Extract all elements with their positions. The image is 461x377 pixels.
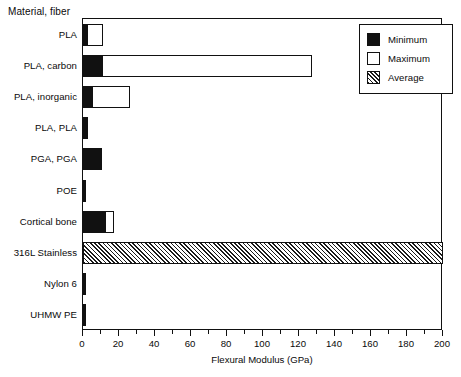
bar-group <box>83 211 441 233</box>
bar-segment-maximum <box>87 24 103 46</box>
x-tick-label: 0 <box>79 338 84 349</box>
y-axis-label-cortical-bone: Cortical bone <box>0 215 77 226</box>
x-tick-label: 40 <box>149 338 160 349</box>
x-tick-label: 120 <box>290 338 306 349</box>
flexural-modulus-chart: Material, fiber PLAPLA, carbonPLA, inorg… <box>0 0 461 377</box>
chart-legend: MinimumMaximumAverage <box>359 24 453 94</box>
x-tick <box>262 330 263 336</box>
y-axis-label-pla-carbon: PLA, carbon <box>0 59 77 70</box>
y-axis-label-pga-pga: PGA, PGA <box>0 153 77 164</box>
bar-group <box>83 117 441 139</box>
x-tick <box>172 330 173 334</box>
x-axis-ticks <box>82 330 442 338</box>
y-axis-label-poe: POE <box>0 184 77 195</box>
x-tick-label: 60 <box>185 338 196 349</box>
bar-segment-minimum <box>83 86 92 108</box>
x-tick <box>280 330 281 334</box>
x-axis-tick-labels: 020406080100120140160180200 <box>82 338 442 352</box>
y-axis-label-316l-stainless: 316L Stainless <box>0 247 77 258</box>
legend-label: Minimum <box>388 34 427 45</box>
y-axis-label-nylon-6: Nylon 6 <box>0 278 77 289</box>
x-tick-label: 180 <box>398 338 414 349</box>
x-tick <box>100 330 101 334</box>
bar-group <box>83 242 441 264</box>
x-axis-title: Flexural Modulus (GPa) <box>82 354 442 365</box>
x-tick-label: 100 <box>254 338 270 349</box>
bar-segment-maximum <box>105 211 114 233</box>
x-tick <box>244 330 245 334</box>
x-tick-label: 140 <box>326 338 342 349</box>
legend-item-average: Average <box>367 68 452 87</box>
bar-group <box>83 273 441 295</box>
x-tick <box>208 330 209 334</box>
solid-black-swatch <box>367 33 380 46</box>
y-axis-label-pla: PLA <box>0 28 77 39</box>
y-axis-title: Material, fiber <box>8 6 70 17</box>
y-axis-label-pla-pla: PLA, PLA <box>0 122 77 133</box>
y-axis-category-labels: PLAPLA, carbonPLA, inorganicPLA, PLAPGA,… <box>0 18 78 330</box>
bar-segment-minimum <box>83 304 86 326</box>
bar-segment-minimum <box>83 273 86 295</box>
bar-segment-maximum <box>102 55 312 77</box>
x-tick <box>406 330 407 336</box>
x-tick <box>298 330 299 336</box>
x-tick-label: 80 <box>221 338 232 349</box>
bar-segment-average <box>83 242 443 264</box>
bar-segment-minimum <box>83 24 87 46</box>
x-tick <box>370 330 371 336</box>
bar-segment-maximum <box>92 86 130 108</box>
x-tick <box>82 330 83 336</box>
bar-segment-minimum <box>83 55 102 77</box>
x-tick-label: 200 <box>434 338 450 349</box>
bar-group <box>83 148 441 170</box>
x-tick <box>316 330 317 334</box>
bar-group <box>83 180 441 202</box>
x-tick <box>442 330 443 336</box>
legend-item-maximum: Maximum <box>367 49 452 68</box>
hatched-swatch <box>367 71 380 84</box>
legend-label: Average <box>388 72 424 83</box>
bar-group <box>83 304 441 326</box>
x-tick <box>136 330 137 334</box>
bar-segment-minimum <box>83 180 86 202</box>
x-tick <box>352 330 353 334</box>
x-tick <box>154 330 155 336</box>
y-axis-label-uhmw-pe: UHMW PE <box>0 309 77 320</box>
dotted-swatch <box>367 52 380 65</box>
bar-segment-minimum <box>83 211 105 233</box>
x-tick <box>424 330 425 334</box>
y-axis-label-pla-inorganic: PLA, inorganic <box>0 91 77 102</box>
x-tick <box>118 330 119 336</box>
x-tick <box>388 330 389 334</box>
x-tick <box>190 330 191 336</box>
legend-label: Maximum <box>388 53 430 64</box>
bar-segment-minimum <box>83 148 102 170</box>
x-tick-label: 160 <box>362 338 378 349</box>
legend-item-minimum: Minimum <box>367 30 452 49</box>
x-tick <box>226 330 227 336</box>
x-tick-label: 20 <box>113 338 124 349</box>
x-tick <box>334 330 335 336</box>
bar-segment-minimum <box>83 117 88 139</box>
